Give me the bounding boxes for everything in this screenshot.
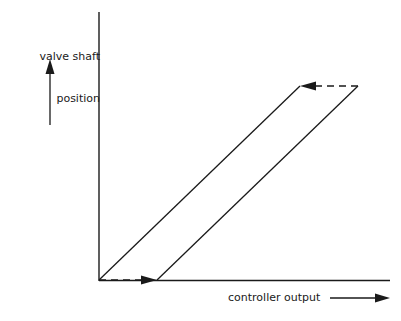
y-axis-label-line1: valve shaft xyxy=(14,50,100,64)
x-axis-label: controller output xyxy=(228,291,320,305)
y-axis-label-line2: position xyxy=(14,92,100,106)
increasing-stroke-line xyxy=(157,86,358,280)
right-arrow-icon-axis xyxy=(375,294,390,303)
decreasing-stroke-line xyxy=(99,86,300,280)
left-arrow-icon xyxy=(300,82,316,91)
right-arrow-icon xyxy=(141,276,157,285)
hysteresis-diagram: valve shaft position controller output xyxy=(0,0,401,321)
y-axis-label: valve shaft position xyxy=(14,22,100,134)
